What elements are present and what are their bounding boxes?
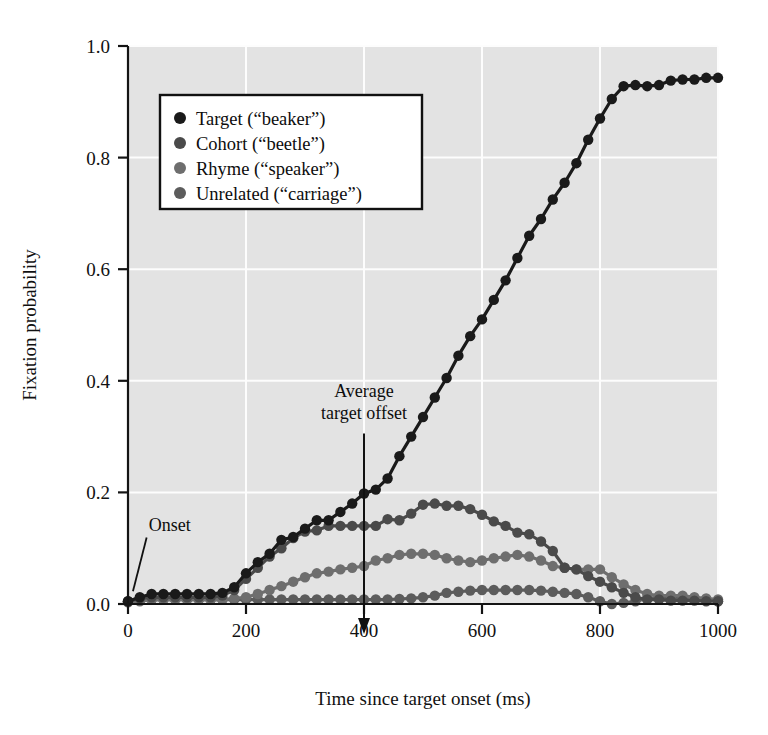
data-point <box>430 550 440 560</box>
y-tick-label: 0.6 <box>86 259 110 280</box>
data-point <box>241 568 251 578</box>
data-point <box>394 594 404 604</box>
data-point <box>382 473 392 483</box>
data-point <box>418 499 428 509</box>
data-point <box>548 561 558 571</box>
data-point <box>406 508 416 518</box>
fixation-probability-line-chart: 020040060080010000.00.20.40.60.81.0 Onse… <box>0 0 768 735</box>
y-tick-label: 0.2 <box>86 482 110 503</box>
data-point <box>288 532 298 542</box>
data-point <box>477 585 487 595</box>
data-point <box>548 587 558 597</box>
y-tick-label: 0.0 <box>86 594 110 615</box>
data-point <box>158 589 168 599</box>
onset-annotation-label: Onset <box>149 515 191 535</box>
data-point <box>382 553 392 563</box>
data-point <box>347 521 357 531</box>
data-point <box>441 588 451 598</box>
x-tick-label: 0 <box>123 620 133 641</box>
data-point <box>654 80 664 90</box>
data-point <box>559 563 569 573</box>
data-point <box>194 589 204 599</box>
data-point <box>607 572 617 582</box>
data-point <box>371 521 381 531</box>
y-axis-title: Fixation probability <box>19 249 40 401</box>
data-point <box>512 550 522 560</box>
data-point <box>583 135 593 145</box>
y-tick-label: 0.4 <box>86 371 110 392</box>
data-point <box>595 113 605 123</box>
x-tick-label: 200 <box>232 620 261 641</box>
data-point <box>618 588 628 598</box>
data-point <box>335 564 345 574</box>
legend: Target (“beaker”)Cohort (“beetle”)Rhyme … <box>160 95 422 209</box>
data-point <box>489 585 499 595</box>
data-point <box>477 555 487 565</box>
data-point <box>465 331 475 341</box>
data-point <box>689 74 699 84</box>
data-point <box>288 576 298 586</box>
data-point <box>536 585 546 595</box>
data-point <box>300 523 310 533</box>
data-point <box>524 585 534 595</box>
data-point <box>500 585 510 595</box>
data-point <box>500 551 510 561</box>
data-point <box>217 588 227 598</box>
data-point <box>465 504 475 514</box>
data-point <box>477 314 487 324</box>
data-point <box>571 158 581 168</box>
data-point <box>607 94 617 104</box>
data-point <box>465 585 475 595</box>
data-point <box>677 74 687 84</box>
data-point <box>276 581 286 591</box>
data-point <box>335 507 345 517</box>
data-point <box>430 590 440 600</box>
data-point <box>524 231 534 241</box>
data-point <box>406 549 416 559</box>
data-point <box>666 75 676 85</box>
y-tick-label: 0.8 <box>86 148 110 169</box>
data-point <box>418 412 428 422</box>
data-point <box>559 178 569 188</box>
data-point <box>323 515 333 525</box>
data-point <box>135 592 145 602</box>
legend-marker-3 <box>174 162 186 174</box>
data-point <box>583 571 593 581</box>
data-point <box>512 585 522 595</box>
data-point <box>264 549 274 559</box>
data-point <box>524 551 534 561</box>
legend-label-1: Target (“beaker”) <box>196 109 325 130</box>
y-tick-label: 1.0 <box>86 36 110 57</box>
data-point <box>394 451 404 461</box>
data-point <box>618 81 628 91</box>
legend-marker-4 <box>174 187 186 199</box>
data-point <box>618 598 628 608</box>
data-point <box>312 525 322 535</box>
data-point <box>453 555 463 565</box>
data-point <box>559 588 569 598</box>
data-point <box>347 498 357 508</box>
data-point <box>477 510 487 520</box>
data-point <box>441 553 451 563</box>
data-point <box>371 484 381 494</box>
data-point <box>630 592 640 602</box>
data-point <box>548 546 558 556</box>
data-point <box>441 501 451 511</box>
legend-marker-2 <box>174 137 186 149</box>
data-point <box>524 529 534 539</box>
data-point <box>406 593 416 603</box>
data-point <box>453 501 463 511</box>
data-point <box>182 589 192 599</box>
data-point <box>264 585 274 595</box>
x-tick-label: 800 <box>586 620 615 641</box>
data-point <box>170 589 180 599</box>
data-point <box>335 521 345 531</box>
data-point <box>453 587 463 597</box>
data-point <box>536 214 546 224</box>
data-point <box>536 536 546 546</box>
data-point <box>229 582 239 592</box>
data-point <box>571 564 581 574</box>
data-point <box>512 527 522 537</box>
data-point <box>430 392 440 402</box>
data-point <box>418 592 428 602</box>
